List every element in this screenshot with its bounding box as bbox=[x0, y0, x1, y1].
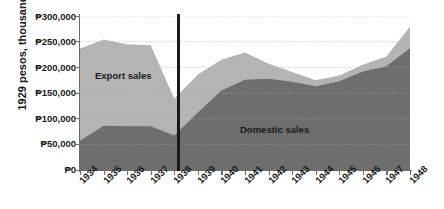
x-axis-tick-labels: 1934193519361937193819391940194119421943… bbox=[0, 170, 444, 209]
x-tick-mark-1939 bbox=[198, 171, 199, 175]
y-axis-line bbox=[79, 14, 80, 172]
x-tick-mark-1943 bbox=[292, 171, 293, 175]
stacked-area-chart: 1929 pesos, thousands ₱300,000 ₱250,000 … bbox=[0, 0, 444, 209]
x-tick-mark-1941 bbox=[245, 171, 246, 175]
export-sales-label: Export sales bbox=[95, 70, 152, 81]
y-tick-label-200000: ₱200,000 bbox=[8, 62, 76, 73]
x-tick-mark-1947 bbox=[386, 171, 387, 175]
domestic-sales-label: Domestic sales bbox=[240, 124, 309, 135]
x-tick-mark-1934 bbox=[80, 171, 81, 175]
y-tick-label-250000: ₱250,000 bbox=[8, 36, 76, 47]
x-tick-mark-1940 bbox=[221, 171, 222, 175]
x-tick-mark-1935 bbox=[104, 171, 105, 175]
x-tick-mark-1946 bbox=[363, 171, 364, 175]
area-plot-svg bbox=[80, 16, 410, 170]
x-tick-mark-1936 bbox=[127, 171, 128, 175]
y-tick-label-100000: ₱100,000 bbox=[8, 113, 76, 124]
y-tick-label-50000: ₱50,000 bbox=[8, 138, 76, 149]
x-tick-mark-1942 bbox=[269, 171, 270, 175]
x-tick-mark-1944 bbox=[316, 171, 317, 175]
x-tick-mark-1948 bbox=[410, 171, 411, 175]
y-tick-label-300000: ₱300,000 bbox=[8, 11, 76, 22]
x-tick-mark-1937 bbox=[151, 171, 152, 175]
x-tick-mark-1938 bbox=[174, 171, 175, 175]
plot-area bbox=[80, 16, 410, 170]
year-1938-divider-line bbox=[177, 14, 180, 171]
y-tick-label-150000: ₱150,000 bbox=[8, 87, 76, 98]
x-tick-mark-1945 bbox=[339, 171, 340, 175]
